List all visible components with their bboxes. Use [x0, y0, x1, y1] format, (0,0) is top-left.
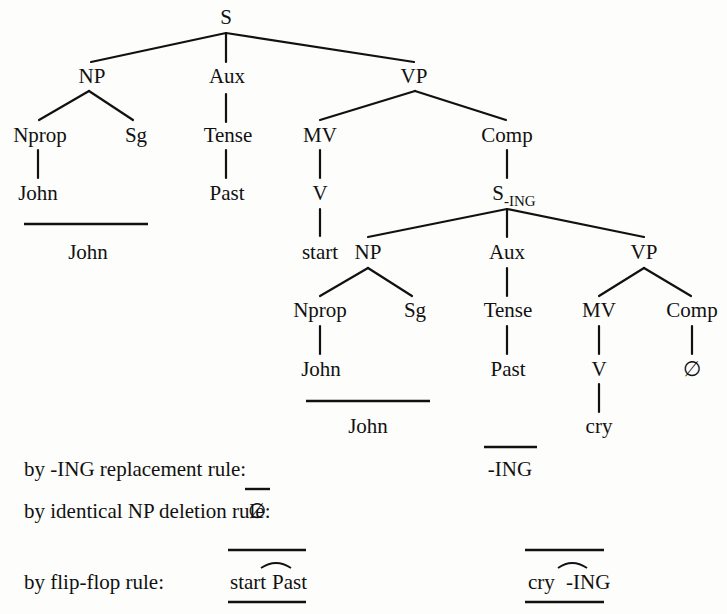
rule-np-deletion-label: by identical NP deletion rule:: [24, 499, 271, 523]
node-s-ing: S-ING: [492, 181, 535, 207]
sub-node-tense: Tense: [484, 298, 533, 322]
sub-leaf-past: Past: [490, 357, 525, 381]
flip-flop-ing: -ING: [566, 570, 610, 594]
sub-node-mv: MV: [582, 298, 616, 322]
rule-ing-replacement-result: -ING: [488, 457, 532, 481]
rule-flip-flop-label: by flip-flop rule:: [24, 570, 164, 594]
summary-john-2: John: [348, 414, 388, 438]
leaf-john: John: [18, 181, 58, 205]
s-ing-base: S: [492, 181, 504, 205]
leaf-start: start: [302, 240, 338, 264]
rule-np-deletion-result: ∅: [248, 499, 266, 523]
flip-flop-cry: cry: [528, 570, 555, 594]
sub-node-aux: Aux: [489, 240, 525, 264]
sub-node-v: V: [591, 357, 606, 381]
node-np: NP: [79, 64, 106, 88]
s-ing-subscript: -ING: [504, 193, 536, 209]
node-v: V: [312, 181, 327, 205]
summary-john-1: John: [68, 240, 108, 264]
flip-flop-past: Past: [272, 570, 307, 594]
sub-node-vp: VP: [631, 240, 658, 264]
flip-flop-start: start: [230, 570, 266, 594]
node-tense: Tense: [204, 123, 253, 147]
sub-node-nprop: Nprop: [293, 298, 347, 322]
node-sg: Sg: [125, 123, 147, 147]
sub-node-np: NP: [355, 240, 382, 264]
node-vp: VP: [401, 64, 428, 88]
sub-node-sg: Sg: [404, 298, 426, 322]
node-aux: Aux: [209, 64, 245, 88]
node-nprop: Nprop: [13, 123, 67, 147]
sub-node-comp: Comp: [666, 298, 717, 322]
sub-leaf-cry: cry: [586, 414, 613, 438]
node-mv: MV: [303, 123, 337, 147]
syntax-tree-diagram: S NP Aux VP Nprop Sg Tense MV Comp John …: [0, 0, 727, 614]
node-s: S: [220, 5, 232, 29]
sub-leaf-null: ∅: [683, 357, 701, 381]
node-comp: Comp: [481, 123, 532, 147]
rule-ing-replacement-label: by -ING replacement rule:: [24, 457, 246, 481]
sub-leaf-john: John: [301, 357, 341, 381]
leaf-past: Past: [209, 181, 244, 205]
